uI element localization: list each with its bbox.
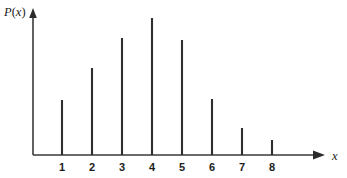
y-axis-arrowhead [29,8,37,18]
x-axis-arrowhead [313,151,325,160]
y-axis-title-close-paren: ) [21,5,25,19]
x-tick-label-5: 5 [179,161,185,173]
x-tick-label-6: 6 [209,161,215,173]
y-axis-title-symbol: P [3,5,12,19]
x-tick-label-8: 8 [269,161,275,173]
y-axis-title: P(x) [3,5,26,19]
x-tick-label-2: 2 [89,161,95,173]
x-tick-label-1: 1 [59,161,65,173]
stem-plot-canvas: 1 2 3 4 5 6 7 8 P(x) x [0,0,347,178]
x-tick-label-4: 4 [149,161,156,173]
x-tick-label-3: 3 [119,161,125,173]
x-axis-title: x [331,149,338,163]
probability-distribution-figure: 1 2 3 4 5 6 7 8 P(x) x [0,0,347,178]
x-tick-label-7: 7 [239,161,245,173]
